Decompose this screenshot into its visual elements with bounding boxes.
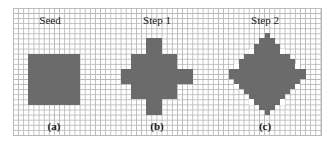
panel-title-seed: Seed: [39, 15, 60, 26]
panel-caption-c: (c): [259, 121, 271, 132]
notch-cell: [234, 84, 239, 89]
filled-cell-block: [146, 99, 161, 114]
notch-cell: [295, 84, 300, 89]
panel-caption-a: (a): [48, 121, 61, 132]
notch-cell: [280, 99, 285, 104]
notch-cell: [280, 49, 285, 54]
notch-cell: [295, 64, 300, 69]
filled-cell-block: [28, 54, 79, 105]
notch-cell: [249, 49, 254, 54]
panel-title-step-2: Step 2: [251, 15, 279, 26]
panel-title-step-1: Step 1: [143, 15, 171, 26]
filled-cell-block: [131, 54, 177, 100]
notch-cell: [234, 64, 239, 69]
filled-cell-block: [265, 110, 270, 115]
cell-grid: [13, 8, 322, 136]
filled-cell-block: [121, 69, 131, 84]
filled-cell-block: [177, 69, 192, 84]
notch-cell: [249, 99, 254, 104]
filled-cell-block: [146, 38, 161, 53]
panel-caption-b: (b): [150, 121, 163, 132]
